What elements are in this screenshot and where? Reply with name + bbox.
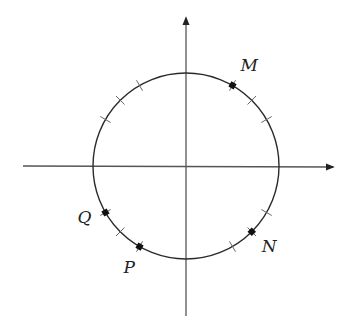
point-m-marker xyxy=(228,81,236,89)
unit-circle-diagram: MNPQ xyxy=(0,0,347,326)
tick-mark xyxy=(100,117,110,123)
tick-mark xyxy=(230,241,236,251)
point-q-label: Q xyxy=(77,207,91,227)
tick-mark xyxy=(261,210,271,216)
tick-mark xyxy=(261,117,271,123)
point-p-marker xyxy=(135,242,143,250)
x-axis xyxy=(23,166,333,167)
point-m-label: M xyxy=(240,55,259,75)
tick-mark xyxy=(137,80,143,90)
point-p-label: P xyxy=(123,257,136,277)
point-q-marker xyxy=(101,208,109,216)
point-n-label: N xyxy=(261,236,278,256)
